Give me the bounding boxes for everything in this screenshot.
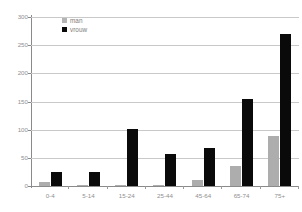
x-tick-mark-0-4 (31, 186, 69, 189)
bar-group-5-14 (69, 17, 107, 186)
y-tick-label-250: 250 (18, 42, 28, 48)
y-tick-mark-150 (28, 102, 31, 103)
x-tick-mark-5-14 (69, 186, 107, 189)
bar-vrouw-15-24 (127, 129, 138, 186)
y-tick-label-200: 200 (18, 70, 28, 76)
bar-man-75+ (268, 136, 279, 186)
bar-groups (31, 17, 299, 186)
bar-vrouw-75+ (280, 34, 291, 186)
y-tick-label-300: 300 (18, 14, 28, 20)
x-tick-mark-65-74 (222, 186, 260, 189)
y-tick-mark-50 (28, 158, 31, 159)
y-tick-mark-200 (28, 73, 31, 74)
bar-vrouw-25-44 (165, 154, 176, 186)
x-axis-tick-marks (31, 186, 299, 189)
legend-item-man[interactable]: man (62, 16, 87, 25)
x-tick-label-45-64: 45-64 (184, 192, 222, 206)
y-tick-label-50: 50 (21, 155, 28, 161)
bar-group-0-4 (31, 17, 69, 186)
legend-label-man: man (70, 17, 82, 24)
plot-area (31, 17, 299, 186)
x-tick-mark-25-44 (146, 186, 184, 189)
legend-label-vrouw: vrouw (70, 26, 87, 33)
y-tick-mark-250 (28, 45, 31, 46)
legend-swatch-icon-vrouw (62, 27, 67, 32)
bar-group-65-74 (222, 17, 260, 186)
x-tick-label-15-24: 15-24 (108, 192, 146, 206)
x-tick-mark-45-64 (184, 186, 222, 189)
bar-vrouw-0-4 (51, 172, 62, 186)
bar-vrouw-65-74 (242, 99, 253, 186)
bar-group-45-64 (184, 17, 222, 186)
chart-legend: manvrouw (62, 16, 87, 34)
legend-swatch-icon-man (62, 18, 67, 23)
y-tick-mark-100 (28, 130, 31, 131)
bar-man-65-74 (230, 166, 241, 186)
bar-group-15-24 (108, 17, 146, 186)
x-tick-label-65-74: 65-74 (222, 192, 260, 206)
y-tick-label-100: 100 (18, 127, 28, 133)
bar-vrouw-5-14 (89, 172, 100, 186)
bar-group-25-44 (146, 17, 184, 186)
y-tick-label-150: 150 (18, 98, 28, 104)
x-axis-tick-labels: 0-45-1415-2425-4445-6465-7475+ (31, 192, 299, 206)
bar-chart: 300250200150100500 0-45-1415-2425-4445-6… (0, 0, 302, 212)
legend-item-vrouw[interactable]: vrouw (62, 25, 87, 34)
y-tick-mark-300 (28, 17, 31, 18)
bar-vrouw-45-64 (204, 148, 215, 186)
x-tick-mark-75+ (261, 186, 299, 189)
bar-group-75+ (261, 17, 299, 186)
x-tick-label-0-4: 0-4 (31, 192, 69, 206)
x-tick-label-25-44: 25-44 (146, 192, 184, 206)
x-tick-label-75+: 75+ (261, 192, 299, 206)
x-tick-label-5-14: 5-14 (69, 192, 107, 206)
x-tick-mark-15-24 (108, 186, 146, 189)
